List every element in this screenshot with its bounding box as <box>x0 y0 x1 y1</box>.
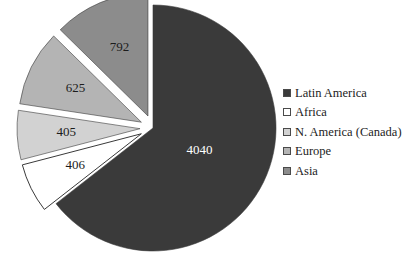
legend-item-label: Asia <box>295 165 318 178</box>
chart-legend: Latin AmericaAfricaN. America (Canada)Eu… <box>283 83 420 181</box>
legend-item-n-america-canada[interactable]: N. America (Canada) <box>283 122 420 142</box>
pie-slice-label-n-america-canada: 405 <box>57 124 77 139</box>
legend-swatch-icon-europe <box>283 147 291 155</box>
legend-swatch-icon-latin-america <box>283 89 291 97</box>
legend-item-asia[interactable]: Asia <box>283 161 420 181</box>
pie-chart: 4040406405625792 Latin AmericaAfricaN. A… <box>0 0 420 256</box>
pie-slice-label-europe: 625 <box>66 80 86 95</box>
pie-slice-label-asia: 792 <box>110 39 130 54</box>
legend-swatch-icon-n-america-canada <box>283 128 291 136</box>
legend-item-label: N. America (Canada) <box>295 126 402 139</box>
legend-item-europe[interactable]: Europe <box>283 142 420 162</box>
pie-slice-label-latin-america: 4040 <box>186 142 212 157</box>
legend-swatch-icon-asia <box>283 167 291 175</box>
pie-slice-label-africa: 406 <box>65 157 85 172</box>
legend-item-africa[interactable]: Africa <box>283 103 420 123</box>
legend-swatch-icon-africa <box>283 108 291 116</box>
legend-item-label: Africa <box>295 106 327 119</box>
legend-item-label: Europe <box>295 145 331 158</box>
legend-item-latin-america[interactable]: Latin America <box>283 83 420 103</box>
legend-item-label: Latin America <box>295 87 367 100</box>
